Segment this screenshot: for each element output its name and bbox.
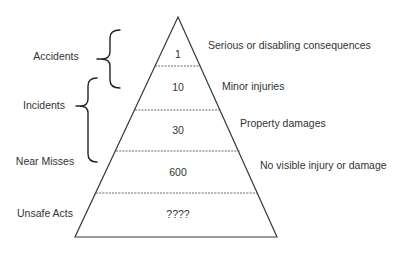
- accidents-brace-icon: [97, 30, 120, 88]
- incidents-brace-icon: [76, 78, 97, 162]
- label-unsafe-acts: Unsafe Acts: [17, 207, 73, 219]
- safety-pyramid-diagram: 1 10 30 600 ???? Serious or disabling co…: [0, 0, 399, 256]
- tier-description-1: Serious or disabling consequences: [208, 39, 371, 51]
- label-incidents: Incidents: [23, 99, 65, 111]
- pyramid-canvas: 1 10 30 600 ???? Serious or disabling co…: [0, 0, 399, 256]
- tier-value-5: ????: [166, 208, 190, 220]
- tier-description-4: No visible injury or damage: [260, 159, 387, 171]
- tier-value-1: 1: [175, 48, 181, 60]
- tier-value-2: 10: [172, 81, 184, 93]
- label-accidents: Accidents: [33, 50, 79, 62]
- label-near-misses: Near Misses: [16, 155, 74, 167]
- tier-description-2: Minor injuries: [222, 80, 284, 92]
- tier-value-4: 600: [169, 166, 187, 178]
- tier-description-3: Property damages: [240, 117, 326, 129]
- tier-value-3: 30: [172, 124, 184, 136]
